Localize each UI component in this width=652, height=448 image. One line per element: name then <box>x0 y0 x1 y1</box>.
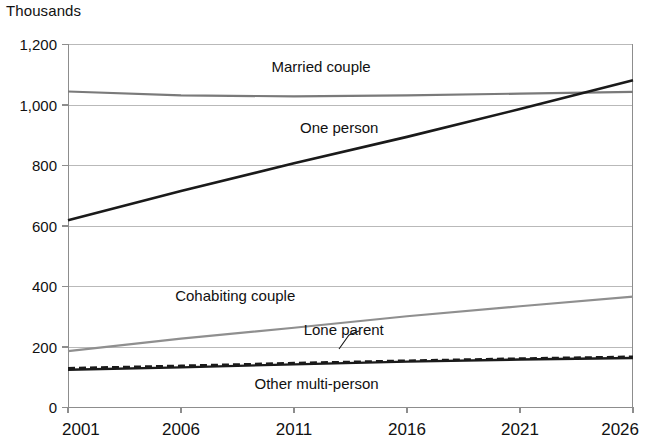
series-line-other-multi-person <box>68 358 633 370</box>
series-label-married-couple: Married couple <box>272 58 371 75</box>
x-tick-label: 2026 <box>601 420 639 439</box>
series-label-one-person: One person <box>300 119 378 136</box>
y-tick-label: 200 <box>32 339 57 356</box>
chart-container: Thousands 02004006008001,0001,200 200120… <box>0 0 652 448</box>
y-tick-label: 400 <box>32 278 57 295</box>
series-label-lone-parent: Lone parent <box>304 321 385 338</box>
series-label-other-multi-person: Other multi-person <box>254 375 378 392</box>
y-tick-label: 1,000 <box>19 97 57 114</box>
series-label-cohabiting-couple: Cohabiting couple <box>175 287 295 304</box>
y-axis-tick-labels: 02004006008001,0001,200 <box>19 36 68 416</box>
series-line-one-person <box>68 80 633 220</box>
line-chart: 02004006008001,0001,200 2001200620112016… <box>0 0 652 448</box>
y-tick-label: 600 <box>32 218 57 235</box>
x-tick-label: 2001 <box>62 420 100 439</box>
gridlines <box>68 45 633 348</box>
series-labels: Married coupleOne personCohabiting coupl… <box>175 58 384 392</box>
y-tick-label: 800 <box>32 157 57 174</box>
x-tick-label: 2006 <box>162 420 200 439</box>
x-tick-label: 2016 <box>388 420 426 439</box>
x-tick-label: 2011 <box>276 420 313 439</box>
y-tick-label: 0 <box>49 399 57 416</box>
x-tick-label: 2021 <box>501 420 539 439</box>
series-line-married-couple <box>68 91 633 96</box>
y-tick-label: 1,200 <box>19 36 57 53</box>
x-axis-tick-labels: 200120062011201620212026 <box>62 407 639 439</box>
